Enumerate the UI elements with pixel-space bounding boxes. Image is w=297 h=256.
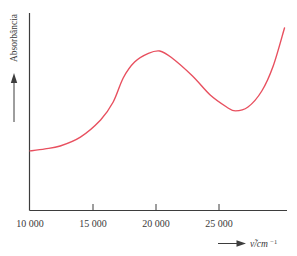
y-axis-title: Absorbância	[9, 13, 19, 62]
x-tick-label: 10 000	[16, 218, 44, 229]
x-axis-title: ν̃/cm −1	[250, 238, 277, 250]
x-tick-label: 25 000	[205, 218, 233, 229]
x-axis-ticks	[93, 204, 219, 211]
absorption-spectrum-figure: 10 00015 00020 00025 000 Absorbância ν̃/…	[0, 0, 297, 256]
x-tick-label: 15 000	[79, 218, 107, 229]
right-arrow-icon	[218, 240, 246, 246]
plot-area: 10 00015 00020 00025 000 Absorbância ν̃/…	[0, 0, 297, 256]
x-axis-tick-labels: 10 00015 00020 00025 000	[16, 218, 233, 229]
spectrum-curve	[30, 28, 285, 151]
x-tick-label: 20 000	[142, 218, 170, 229]
up-arrow-icon	[11, 73, 17, 122]
